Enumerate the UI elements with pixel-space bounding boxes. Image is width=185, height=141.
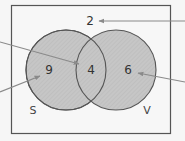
intersection-count: 4 xyxy=(87,63,95,77)
s-only-count: 9 xyxy=(45,63,53,77)
set-s-label: S xyxy=(30,104,37,117)
set-v-label: V xyxy=(143,104,151,117)
outside-count: 2 xyxy=(86,14,94,28)
v-only-count: 6 xyxy=(124,63,132,77)
venn-diagram: 2 9 4 6 S V xyxy=(0,0,185,141)
